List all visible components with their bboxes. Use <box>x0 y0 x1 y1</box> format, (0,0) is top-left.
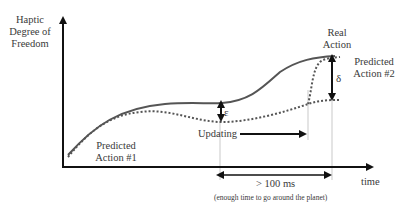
real-action-label-line: Real <box>312 27 362 39</box>
y-axis-label-line: Haptic <box>4 14 56 26</box>
predicted-action-1-label-line: Predicted <box>88 140 144 152</box>
predicted-action-2-label-line: Predicted <box>345 56 403 68</box>
delta-label: δ <box>336 72 341 84</box>
latency-note: (enough time to go around the planet) <box>214 193 327 202</box>
latency-label: > 100 ms <box>256 178 295 190</box>
predicted-action-2-label-line: Action #2 <box>345 68 403 80</box>
real-action-label-line: Action <box>312 39 362 51</box>
predicted-action-2-label: Predicted Action #2 <box>345 56 403 80</box>
real-action-label: Real Action <box>312 27 362 51</box>
updating-label: Updating <box>198 128 237 140</box>
y-axis-label-line: Degree of <box>4 26 56 38</box>
x-axis-label: time <box>361 176 380 188</box>
y-axis-label-line: Freedom <box>4 38 56 50</box>
predicted-action-1-label: Predicted Action #1 <box>88 140 144 164</box>
epsilon-label: ε <box>224 106 229 118</box>
predicted-action-1-label-line: Action #1 <box>88 152 144 164</box>
y-axis-label: Haptic Degree of Freedom <box>4 14 56 50</box>
